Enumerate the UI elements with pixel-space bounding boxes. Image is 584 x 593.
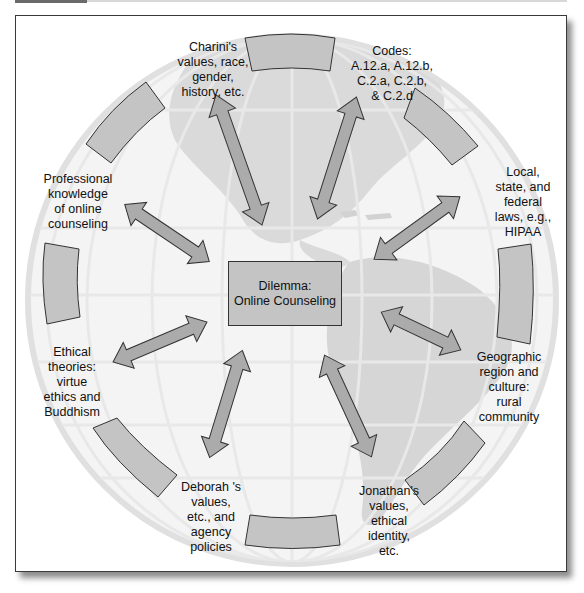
label-charini: Charini's values, race, gender, history,…: [158, 40, 268, 100]
label-professional: Professional knowledge of online counsel…: [30, 172, 126, 232]
dilemma-subtitle: Online Counseling: [234, 294, 336, 309]
label-laws: Local, state, and federal laws, e.g., HI…: [483, 165, 563, 240]
dilemma-title: Dilemma:: [259, 279, 312, 294]
label-jonathan: Jonathan's values, ethical identity, etc…: [347, 484, 431, 559]
arc-box-right: [497, 244, 533, 344]
label-geographic: Geographic region and culture: rural com…: [465, 350, 553, 425]
label-ethical: Ethical theories: virtue ethics and Budd…: [30, 345, 114, 420]
label-deborah: Deborah 's values, etc., and agency poli…: [169, 480, 253, 555]
dilemma-box: Dilemma: Online Counseling: [228, 261, 342, 326]
label-codes: Codes: A.12.a, A.12.b, C.2.a, C.2.b, & C…: [336, 44, 448, 104]
arc-box-bottom: [245, 515, 340, 549]
arc-box-left: [43, 243, 80, 324]
